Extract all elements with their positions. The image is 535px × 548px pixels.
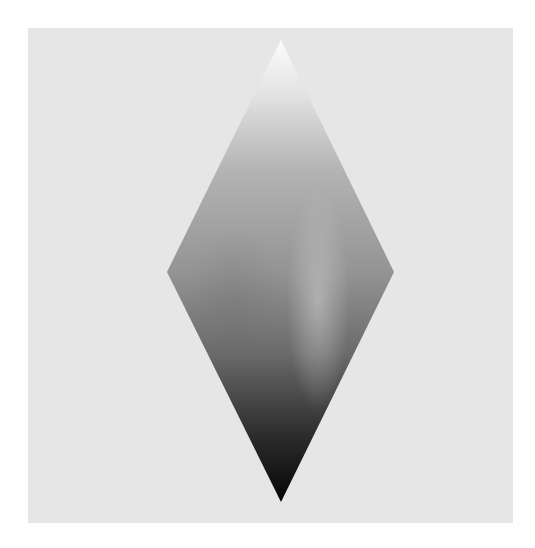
shading bbox=[160, 40, 400, 510]
figure-canvas bbox=[0, 0, 535, 548]
rhombus-figure bbox=[0, 0, 535, 548]
